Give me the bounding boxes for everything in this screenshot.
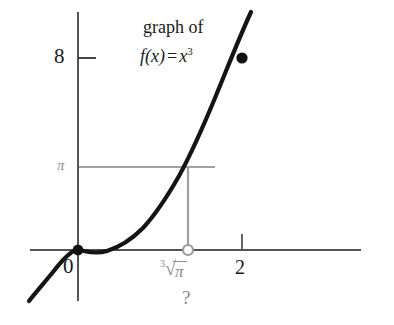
origin-label: 0: [63, 256, 74, 277]
point-2-8: [236, 52, 247, 63]
cbrt-index: 3: [160, 259, 165, 269]
function-formula-label: f(x)=x3: [140, 46, 193, 65]
cbrt-pi-point: [183, 245, 193, 255]
unknown-value-marker: ?: [182, 288, 190, 307]
formula-argument: (x): [145, 46, 165, 66]
formula-equals-sign: =: [165, 46, 179, 66]
y-axis-tick-label-8: 8: [54, 46, 65, 67]
formula-base: x: [179, 46, 187, 66]
formula-exponent: 3: [187, 45, 193, 57]
radicand-pi: π: [173, 261, 187, 280]
cbrt-pi-label: 3 √π: [160, 258, 187, 278]
origin-point: [73, 245, 84, 256]
radical-sign-group: √π: [163, 258, 187, 278]
x-axis-tick-label-2: 2: [235, 257, 245, 277]
y-axis-guide-label-pi: π: [57, 158, 65, 173]
graph-of-label: graph of: [143, 18, 203, 36]
